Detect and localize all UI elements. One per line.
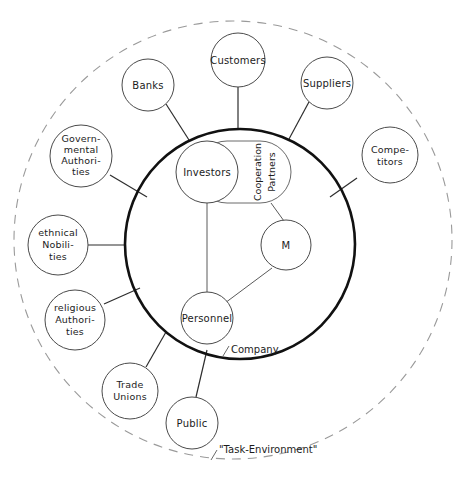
- node-religious-authorities-label-line1: religious: [54, 302, 96, 313]
- node-competitors-label-line2: titors: [377, 156, 403, 167]
- node-governmental-authorities-label-line3: Authori-: [61, 155, 101, 166]
- node-ethnical-nobilities-label-line2: Nobili-: [42, 239, 74, 250]
- company-boundary: [125, 129, 355, 359]
- node-competitors-label-line1: Compe-: [371, 144, 409, 155]
- node-religious-authorities-label-line3: ties: [66, 326, 84, 337]
- node-governmental-authorities-label-line4: ties: [72, 166, 90, 177]
- node-religious-authorities-label-line2: Authori-: [55, 314, 95, 325]
- node-suppliers-label: Suppliers: [303, 78, 351, 89]
- node-cooperation-partners-label-line2: Partners: [266, 152, 277, 192]
- edge-banks-company: [166, 104, 189, 140]
- edge-management-personnel: [225, 268, 272, 303]
- stakeholder-diagram: Cooperation Partners Investors M Personn…: [0, 0, 468, 480]
- node-cooperation-partners-label-line1: Cooperation: [252, 143, 263, 201]
- node-investors-label: Investors: [183, 167, 231, 178]
- edge-cooperation-partners-management: [271, 203, 284, 221]
- node-governmental-authorities-label-line1: Govern-: [61, 133, 100, 144]
- node-trade-unions-label-line2: Unions: [113, 391, 147, 402]
- task-environment-boundary-label: "Task-Environment": [219, 444, 317, 455]
- node-ethnical-nobilities-label-line1: ethnical: [38, 227, 78, 238]
- edge-public-company: [196, 350, 207, 397]
- company-label-leader: [223, 346, 229, 356]
- node-trade-unions-label-line1: Trade: [115, 379, 143, 390]
- company-boundary-label: Company: [231, 344, 279, 355]
- node-public-label: Public: [177, 418, 208, 429]
- node-governmental-authorities-label-line2: mental: [64, 144, 99, 155]
- node-banks-label: Banks: [132, 80, 163, 91]
- edge-trade-unions-company: [146, 332, 166, 367]
- edge-suppliers-company: [289, 100, 310, 139]
- node-customers-label: Customers: [210, 55, 266, 66]
- edge-group-external: [88, 87, 357, 397]
- node-management-label: M: [282, 240, 291, 251]
- node-personnel-label: Personnel: [182, 313, 233, 324]
- node-ethnical-nobilities-label-line3: ties: [49, 251, 67, 262]
- diagram-canvas: Cooperation Partners Investors M Personn…: [0, 0, 468, 480]
